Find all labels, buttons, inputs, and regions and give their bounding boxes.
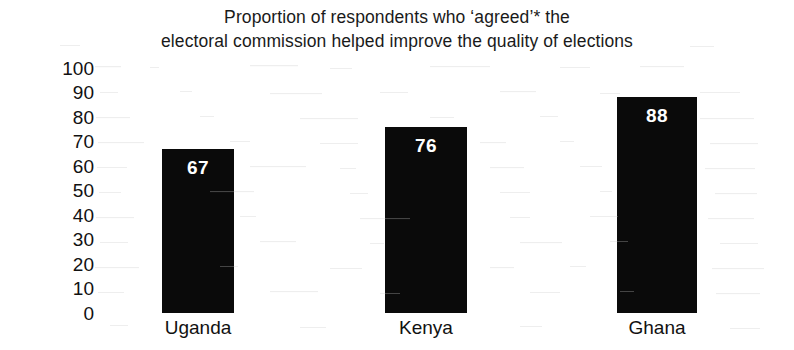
bar-value-uganda: 67 xyxy=(162,158,234,177)
y-tick-label-10: 10 xyxy=(20,279,94,298)
bar-value-kenya: 76 xyxy=(385,136,467,155)
y-tick-label-60: 60 xyxy=(20,157,94,176)
bar-uganda[interactable]: 67 xyxy=(162,149,234,313)
bar-value-ghana: 88 xyxy=(617,106,697,125)
y-tick-label-40: 40 xyxy=(20,206,94,225)
x-tick-label-uganda: Uganda xyxy=(142,317,254,339)
x-tick-label-ghana: Ghana xyxy=(601,317,713,339)
y-axis: 100 90 80 70 60 50 40 30 20 10 0 xyxy=(20,0,94,350)
bar-kenya[interactable]: 76 xyxy=(385,127,467,313)
plot-area: 100 90 80 70 60 50 40 30 20 10 0 67 Ugan… xyxy=(0,0,794,350)
x-tick-label-kenya: Kenya xyxy=(370,317,482,339)
y-tick-label-50: 50 xyxy=(20,181,94,200)
y-tick-label-80: 80 xyxy=(20,108,94,127)
bar-chart: Proportion of respondents who ‘agreed’* … xyxy=(0,0,794,350)
y-tick-label-100: 100 xyxy=(20,59,94,78)
y-tick-label-20: 20 xyxy=(20,255,94,274)
y-tick-label-0: 0 xyxy=(20,304,94,323)
y-tick-label-90: 90 xyxy=(20,83,94,102)
y-tick-label-30: 30 xyxy=(20,230,94,249)
bar-ghana[interactable]: 88 xyxy=(617,97,697,313)
y-tick-label-70: 70 xyxy=(20,132,94,151)
